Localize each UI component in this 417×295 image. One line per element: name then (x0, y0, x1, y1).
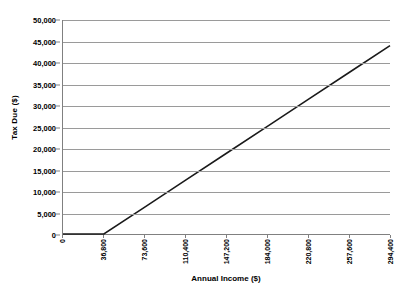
y-axis-tick-mark (56, 192, 60, 193)
x-axis-tick-label: 36,800 (100, 239, 107, 260)
y-axis-tick-mark (56, 213, 60, 214)
y-axis-tick-label: 35,000 (33, 80, 56, 89)
y-axis-tick-label: 15,000 (33, 166, 56, 175)
x-axis-tick-label: 0 (59, 239, 66, 243)
gridline-horizontal (63, 85, 390, 86)
x-axis-tick-label: 220,800 (305, 239, 312, 264)
y-axis-tick-mark (56, 106, 60, 107)
x-axis-tick-labels: 036,80073,600110,400147,200184,000220,80… (62, 239, 390, 273)
x-axis-tick-mark (349, 235, 350, 238)
gridline-horizontal (63, 214, 390, 215)
y-axis-tick-mark (56, 20, 60, 21)
gridline-horizontal (63, 20, 390, 21)
gridline-horizontal (63, 128, 390, 129)
gridline-horizontal (63, 171, 390, 172)
x-axis-tick-mark (144, 235, 145, 238)
y-axis-tick-mark (56, 84, 60, 85)
y-axis-tick-mark (56, 235, 60, 236)
x-axis-tick-label: 184,000 (264, 239, 271, 264)
y-axis-tick-label: 30,000 (33, 102, 56, 111)
tax-due-line-chart: Tax Due ($) 05,00010,00015,00020,00025,0… (0, 0, 417, 295)
gridline-horizontal (63, 63, 390, 64)
y-axis-tick-mark (56, 149, 60, 150)
gridline-horizontal (63, 192, 390, 193)
y-axis-tick-label: 10,000 (33, 188, 56, 197)
y-axis-tick-mark (56, 127, 60, 128)
y-axis-tick-label: 40,000 (33, 59, 56, 68)
x-axis-tick-label: 257,600 (346, 239, 353, 264)
x-axis-tick-mark (185, 235, 186, 238)
y-axis-tick-mark (56, 41, 60, 42)
y-axis-title-text: Tax Due ($) (10, 95, 19, 140)
x-axis-tick-mark (103, 235, 104, 238)
gridline-horizontal (63, 42, 390, 43)
x-axis-tick-label: 110,400 (182, 239, 189, 264)
gridline-horizontal (63, 106, 390, 107)
y-axis-tick-label: 45,000 (33, 37, 56, 46)
x-axis-tick-mark (62, 235, 63, 238)
x-axis-tick-label: 73,600 (141, 239, 148, 260)
y-axis-tick-label: 25,000 (33, 123, 56, 132)
x-axis-tick-mark (390, 235, 391, 238)
plot-area (62, 20, 390, 235)
x-axis-title: Annual Income ($) (62, 274, 390, 283)
y-axis-tick-labels: 05,00010,00015,00020,00025,00030,00035,0… (20, 20, 60, 235)
tax-due-line (63, 46, 390, 234)
y-axis-tick-mark (56, 170, 60, 171)
y-axis-tick-label: 20,000 (33, 145, 56, 154)
x-axis-tick-label: 147,200 (223, 239, 230, 264)
x-axis-tick-mark (226, 235, 227, 238)
gridline-horizontal (63, 149, 390, 150)
y-axis-tick-label: 50,000 (33, 16, 56, 25)
x-axis-tick-mark (267, 235, 268, 238)
y-axis-tick-mark (56, 63, 60, 64)
x-axis-tick-mark (308, 235, 309, 238)
y-axis-tick-label: 5,000 (37, 209, 56, 218)
x-axis-tick-label: 294,400 (387, 239, 394, 264)
